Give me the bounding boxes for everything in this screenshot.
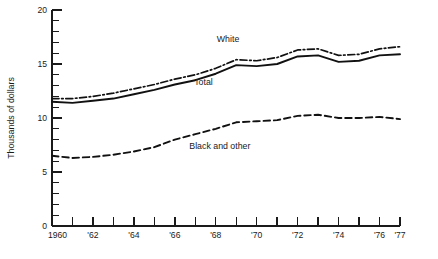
y-tick-label: 20: [37, 5, 47, 15]
annotation-label: Black and other: [189, 141, 250, 151]
y-tick-label: 0: [42, 221, 47, 231]
annotation-label: White: [217, 34, 240, 44]
x-tick-label: '74: [333, 230, 344, 240]
y-axis: 05101520: [37, 5, 62, 231]
x-tick-label: '70: [251, 230, 262, 240]
chart-container: 05101520 1960'62'64'66'68'70'72'74'76'77…: [0, 0, 438, 259]
series-line-total: [52, 54, 400, 103]
x-axis: 1960'62'64'66'68'70'72'74'76'77: [48, 217, 406, 240]
x-tick-label: '76: [374, 230, 385, 240]
x-tick-label: '64: [128, 230, 139, 240]
x-tick-label: '68: [210, 230, 221, 240]
x-tick-label: 1960: [48, 230, 67, 240]
y-tick-label: 10: [37, 113, 47, 123]
line-chart: 05101520 1960'62'64'66'68'70'72'74'76'77…: [0, 0, 438, 259]
x-tick-label: '62: [87, 230, 98, 240]
x-tick-label: '77: [394, 230, 405, 240]
y-tick-label: 15: [37, 59, 47, 69]
series-line-white: [52, 47, 400, 99]
annotation-label: Total: [194, 77, 213, 87]
y-tick-label: 5: [42, 167, 47, 177]
series-line-black-and-other: [52, 115, 400, 158]
x-tick-label: '72: [292, 230, 303, 240]
x-tick-label: '66: [169, 230, 180, 240]
y-axis-title: Thousands of dollars: [6, 77, 16, 159]
